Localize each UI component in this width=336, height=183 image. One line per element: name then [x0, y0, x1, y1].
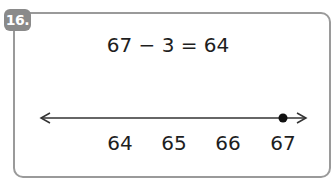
tick-label-64: 64: [107, 131, 132, 155]
tick-label-66: 66: [215, 131, 240, 155]
number-line: [0, 0, 336, 183]
tick-label-65: 65: [161, 131, 186, 155]
tick-label-67: 67: [270, 131, 295, 155]
marked-point: [279, 114, 288, 123]
